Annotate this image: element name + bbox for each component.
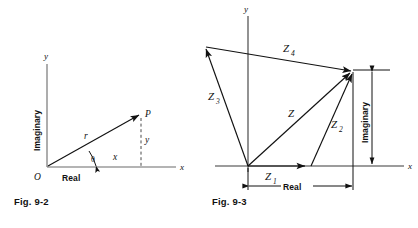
fig93-label-z1-sub: 1 (273, 177, 277, 186)
fig93-label-z2-sub: 2 (339, 125, 343, 134)
fig92-imaginary-axis-name: Imaginary (32, 110, 42, 151)
fig92-caption: Fig. 9-2 (14, 196, 49, 207)
fig93-label-z4-base: Z (283, 42, 290, 54)
fig92-x-component-label: x (112, 152, 118, 162)
figures-canvas: y x O P r θ x y Imaginary Real Fig. 9-2 (0, 0, 418, 228)
fig92-radius-label: r (84, 131, 88, 141)
figure-9-3: y x Z 4 Z 3 Z Z 2 Z 1 (206, 4, 412, 207)
fig92-theta-label: θ (91, 155, 95, 164)
figure-9-2: y x O P r θ x y Imaginary Real Fig. 9-2 (14, 51, 184, 207)
fig93-label-z: Z (288, 107, 295, 119)
fig93-real-axis-name: Real (283, 182, 301, 192)
fig93-label-z1: Z 1 (265, 170, 277, 186)
fig92-y-component-label: y (144, 135, 150, 145)
fig93-label-z2: Z 2 (331, 118, 343, 134)
figure-page: y x O P r θ x y Imaginary Real Fig. 9-2 (0, 0, 418, 228)
fig93-vector-z4 (206, 47, 351, 71)
fig93-label-z4-sub: 4 (291, 49, 295, 58)
fig93-label-z3-base: Z (208, 90, 215, 102)
fig93-vector-z3 (206, 49, 248, 166)
fig92-origin-label: O (34, 172, 41, 182)
fig93-label-z-base: Z (288, 107, 295, 119)
fig93-label-z4: Z 4 (283, 42, 295, 58)
fig93-label-z3-sub: 3 (215, 97, 220, 106)
fig92-point-p-label: P (144, 109, 151, 119)
fig93-label-z3: Z 3 (208, 90, 220, 106)
fig93-y-axis-label: y (243, 4, 248, 14)
fig92-x-axis-label: x (179, 162, 184, 172)
fig93-caption: Fig. 9-3 (212, 196, 247, 207)
fig92-y-axis-label: y (43, 51, 48, 61)
fig93-label-z1-base: Z (265, 170, 272, 182)
fig93-x-axis-label: x (407, 161, 412, 171)
fig93-label-z2-base: Z (331, 118, 338, 130)
fig92-real-axis-name: Real (62, 173, 80, 183)
fig93-imaginary-axis-name: Imaginary (360, 102, 370, 143)
